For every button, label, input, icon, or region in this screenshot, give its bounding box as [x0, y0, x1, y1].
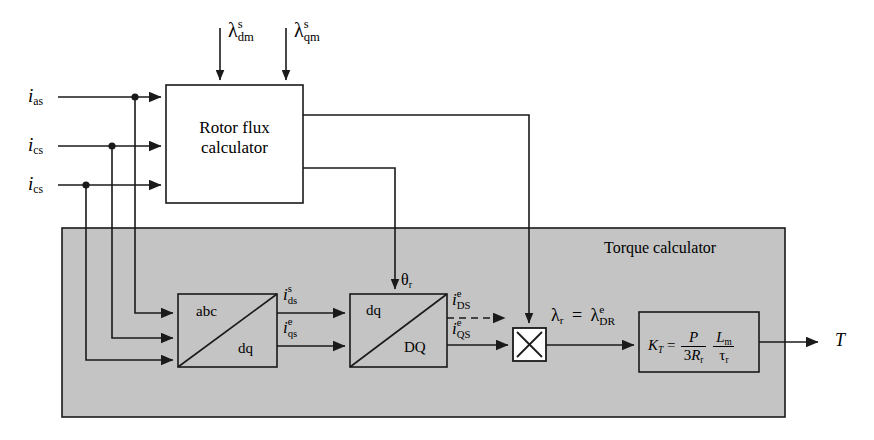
signal-label-ids-s: isds	[283, 286, 306, 303]
signal-label-iqs-e: ieqs	[283, 319, 306, 336]
block-label-dq-upper: dq	[366, 303, 381, 318]
signal-label-lambda-r: λr = λeDR	[551, 306, 618, 324]
block-label-abc: abc	[196, 304, 217, 319]
diagram-svg	[0, 0, 874, 440]
block-label-rotor-flux-calculator: Rotor fluxcalculator	[166, 118, 303, 158]
block-label-gain-equation: KT = P 3Rr Lm τr	[648, 330, 736, 363]
input-label-i-cs-2: ics	[28, 135, 43, 154]
block-label-DQ: DQ	[404, 340, 426, 355]
signal-label-iDS-e: ieDS	[452, 291, 475, 308]
input-label-i-as: ias	[28, 86, 43, 105]
input-label-lambda-qm: λsqm	[294, 20, 325, 40]
input-label-i-cs-3: ics	[28, 174, 43, 193]
block-abc-dq	[178, 294, 277, 367]
panel-label-torque-calculator: Torque calculator	[604, 240, 716, 256]
signal-label-theta-r: θr	[401, 272, 412, 288]
block-label-dq-lower: dq	[238, 341, 253, 356]
signal-label-iQS-e: ieQS	[452, 320, 475, 337]
diagram-canvas: ias ics ics λsdm λsqm Rotor fluxcalculat…	[0, 0, 874, 440]
output-label-torque: T	[835, 331, 845, 349]
input-label-lambda-dm: λsdm	[228, 20, 259, 40]
block-dq-DQ	[350, 294, 447, 367]
block-multiplier	[513, 328, 546, 361]
